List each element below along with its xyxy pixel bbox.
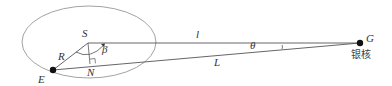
label-R: R xyxy=(57,50,65,62)
label-theta: θ xyxy=(250,39,256,51)
diagram-canvas: S E N G 银核 R l L β θ xyxy=(0,0,392,86)
label-l: l xyxy=(196,28,199,40)
right-angle-marker xyxy=(90,59,95,64)
label-E: E xyxy=(37,73,45,85)
segment-SN xyxy=(88,43,90,64)
label-L: L xyxy=(213,56,220,68)
label-S: S xyxy=(82,27,88,39)
label-N: N xyxy=(86,66,95,78)
segment-L xyxy=(53,43,360,70)
geometry-diagram: S E N G 银核 R l L β θ xyxy=(0,0,392,86)
earth-dot xyxy=(50,67,56,73)
label-G: G xyxy=(366,32,374,44)
theta-arc xyxy=(282,45,283,49)
beta-arc xyxy=(76,45,104,55)
galactic-center-dot xyxy=(357,40,363,46)
label-galactic-center: 银核 xyxy=(351,48,371,60)
label-beta: β xyxy=(101,43,108,55)
